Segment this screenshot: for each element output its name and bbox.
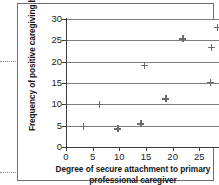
- y-tick-label-10: 10: [40, 99, 62, 109]
- data-point: [114, 125, 121, 132]
- y-tick-label-wrap-30: 30: [38, 14, 62, 24]
- y-tick-mark-30: [62, 19, 66, 20]
- data-point: [80, 123, 87, 130]
- data-point: [214, 24, 219, 31]
- y-tick-mark-5: [62, 126, 66, 127]
- data-point: [208, 44, 215, 51]
- y-tick-label-5: 5: [40, 121, 62, 131]
- gridline-y-10: [66, 104, 219, 105]
- data-point: [96, 101, 103, 108]
- y-tick-label-0: 0: [40, 142, 62, 152]
- gridline-y-25: [66, 40, 219, 41]
- y-tick-label-20: 20: [40, 57, 62, 67]
- data-point: [162, 95, 169, 102]
- x-tick-label-15: 15: [136, 152, 156, 162]
- y-tick-label-wrap-5: 5: [38, 121, 62, 131]
- data-point: [207, 79, 214, 86]
- margin-tick-lower: [0, 172, 16, 173]
- y-tick-mark-25: [62, 40, 66, 41]
- y-tick-label-wrap-0: 0: [38, 142, 62, 152]
- data-point: [137, 120, 144, 127]
- x-tick-label-0: 0: [56, 152, 76, 162]
- data-point: [179, 35, 186, 42]
- gridline-y-30: [66, 19, 219, 20]
- x-tick-label-5: 5: [83, 152, 103, 162]
- y-tick-mark-10: [62, 104, 66, 105]
- x-axis-label-line1: Degree of secure attachment to primary: [42, 164, 219, 175]
- y-tick-mark-20: [62, 62, 66, 63]
- y-tick-label-wrap-20: 20: [38, 57, 62, 67]
- figure-frame: Frequency of positive caregiving behavio…: [17, 3, 214, 181]
- x-tick-label-10: 10: [109, 152, 129, 162]
- x-tick-label-25: 25: [189, 152, 209, 162]
- x-axis-label-line2: professional caregiver: [42, 175, 219, 185]
- screenshot-root: Frequency of positive caregiving behavio…: [0, 0, 219, 185]
- y-tick-label-wrap-25: 25: [38, 35, 62, 45]
- margin-tick-upper: [0, 61, 16, 62]
- gridline-y-15: [66, 83, 219, 84]
- y-tick-label-wrap-10: 10: [38, 99, 62, 109]
- plot-area: [66, 19, 219, 147]
- y-axis-line: [66, 18, 67, 148]
- y-axis-label: Frequency of positive caregiving behavio…: [27, 0, 37, 131]
- y-tick-label-15: 15: [40, 78, 62, 88]
- y-tick-label-30: 30: [40, 14, 62, 24]
- y-tick-label-25: 25: [40, 35, 62, 45]
- data-point: [141, 62, 148, 69]
- x-axis-line: [65, 147, 219, 148]
- x-axis-label: Degree of secure attachment to primary p…: [42, 164, 219, 185]
- y-tick-mark-15: [62, 83, 66, 84]
- x-tick-label-20: 20: [163, 152, 183, 162]
- x-tick-label-30: 30: [216, 152, 219, 162]
- y-tick-label-wrap-15: 15: [38, 78, 62, 88]
